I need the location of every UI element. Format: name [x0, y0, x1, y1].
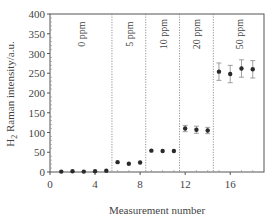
data-point — [160, 149, 164, 153]
raman-scatter-chart: 05010015020025030035040004812160 ppm5 pp… — [0, 0, 275, 224]
group-label: 50 ppm — [234, 19, 245, 50]
y-tick-label: 50 — [34, 146, 46, 158]
data-point — [172, 149, 176, 153]
data-point — [93, 169, 97, 173]
x-axis-label: Measurement number — [109, 204, 206, 216]
y-tick-label: 400 — [29, 8, 46, 20]
y-tick-label: 250 — [29, 67, 46, 79]
y-tick-label: 350 — [29, 28, 46, 40]
group-label: 0 ppm — [76, 21, 87, 47]
data-point — [194, 128, 198, 132]
data-point — [104, 169, 108, 173]
y-axis-label: H2 Raman intensity/a.u. — [4, 41, 19, 147]
chart-canvas: 05010015020025030035040004812160 ppm5 pp… — [0, 0, 275, 224]
data-point — [149, 148, 153, 152]
group-label: 10 ppm — [158, 19, 169, 50]
group-label: 20 ppm — [191, 19, 202, 50]
data-point — [205, 128, 209, 132]
data-point — [228, 72, 232, 76]
plot-area: 05010015020025030035040004812160 ppm5 pp… — [29, 8, 265, 190]
y-tick-label: 100 — [29, 127, 46, 139]
data-point — [217, 69, 221, 73]
data-point — [59, 169, 63, 173]
data-point — [138, 160, 142, 164]
y-tick-label: 0 — [40, 166, 46, 178]
data-point — [115, 160, 119, 164]
x-tick-label: 12 — [180, 178, 191, 190]
data-point — [183, 126, 187, 130]
y-tick-label: 300 — [29, 48, 46, 60]
data-point — [251, 67, 255, 71]
x-tick-label: 0 — [47, 178, 53, 190]
x-tick-label: 16 — [225, 178, 237, 190]
x-tick-label: 4 — [92, 178, 98, 190]
x-tick-label: 8 — [137, 178, 143, 190]
y-tick-label: 200 — [29, 87, 46, 99]
data-point — [127, 162, 131, 166]
group-label: 5 ppm — [124, 21, 135, 47]
data-point — [239, 66, 243, 70]
y-tick-label: 150 — [29, 107, 46, 119]
data-point — [82, 169, 86, 173]
data-point — [70, 169, 74, 173]
